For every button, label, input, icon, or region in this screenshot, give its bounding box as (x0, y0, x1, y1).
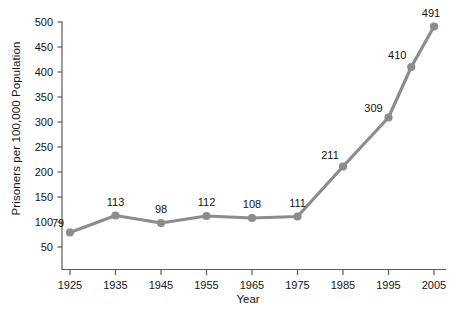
data-point-marker (157, 219, 165, 227)
data-point-marker (248, 214, 256, 222)
x-axis-title: Year (0, 293, 456, 305)
data-point-marker (339, 162, 347, 170)
y-axis-tick-label: 500 (21, 17, 53, 28)
data-point-label: 112 (187, 197, 227, 208)
y-axis-tick-label: 50 (21, 242, 53, 253)
data-point-label: 211 (310, 150, 350, 161)
y-axis-tick-label: 250 (21, 142, 53, 153)
x-axis-tick-label: 1985 (319, 280, 367, 291)
data-point-label: 113 (96, 197, 136, 208)
data-point-label: 79 (38, 218, 78, 229)
x-axis-tick-label: 1935 (92, 280, 140, 291)
y-axis-tick-label: 350 (21, 92, 53, 103)
x-axis-tick-label: 1975 (274, 280, 322, 291)
x-axis-tick-label: 1945 (137, 280, 185, 291)
y-axis-tick-label: 200 (21, 167, 53, 178)
data-point-label: 108 (232, 199, 272, 210)
data-point-label: 491 (411, 8, 451, 19)
y-axis-tick-label: 150 (21, 192, 53, 203)
x-axis-tick-label: 1925 (46, 280, 94, 291)
x-axis-ticks (70, 270, 434, 276)
x-axis-title-text: Year (236, 293, 259, 305)
data-point-marker (430, 22, 438, 30)
x-axis-tick-label: 1965 (228, 280, 276, 291)
y-axis-ticks (58, 22, 63, 247)
x-axis-tick-label: 1955 (183, 280, 231, 291)
line-chart: Prisoners per 100,000 Population Year 50… (0, 0, 456, 317)
x-axis-tick-label: 2005 (410, 280, 456, 291)
data-point-marker (202, 212, 210, 220)
chart-canvas (0, 0, 456, 317)
data-point-marker (66, 228, 74, 236)
y-axis-tick-label: 450 (21, 42, 53, 53)
data-point-label: 410 (377, 50, 417, 61)
data-point-label: 111 (278, 198, 318, 209)
y-axis-tick-label: 300 (21, 117, 53, 128)
data-point-marker (407, 63, 415, 71)
y-axis-tick-label: 400 (21, 67, 53, 78)
x-axis-tick-label: 1995 (365, 280, 413, 291)
data-point-marker (384, 113, 392, 121)
data-point-label: 309 (354, 103, 394, 114)
data-point-marker (111, 211, 119, 219)
data-point-label: 98 (141, 204, 181, 215)
data-point-marker (293, 212, 301, 220)
